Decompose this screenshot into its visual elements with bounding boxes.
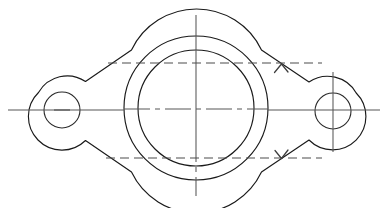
drawing-svg [0, 0, 388, 208]
centerlines-group [8, 15, 380, 196]
engineering-drawing-canvas [0, 0, 388, 208]
section-arrow-down-icon [275, 150, 288, 159]
section-arrow-up-icon [275, 64, 289, 73]
